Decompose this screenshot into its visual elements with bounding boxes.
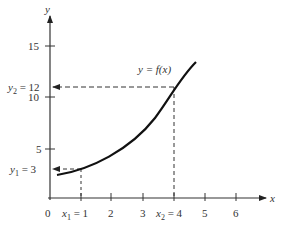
x-tick-5: 5 bbox=[202, 207, 208, 219]
y1-label: y1 = 3 bbox=[9, 163, 37, 178]
y-tick-15: 15 bbox=[28, 40, 40, 52]
y-tick-5: 5 bbox=[36, 143, 42, 155]
function-diagram: x y y = f(x) 15 10 5 y2 = 12 y1 = 3 0 x1… bbox=[0, 0, 286, 232]
curve-label: y = f(x) bbox=[137, 63, 171, 76]
x-tick-3: 3 bbox=[140, 207, 146, 219]
x1-label: x1 = 1 bbox=[61, 207, 88, 222]
function-curve bbox=[57, 62, 196, 175]
y-axis-label: y bbox=[44, 3, 50, 15]
x-tick-2: 2 bbox=[108, 207, 114, 219]
x-ticks bbox=[81, 193, 236, 201]
x-axis-label: x bbox=[269, 192, 275, 204]
x2-label: x2 = 4 bbox=[155, 207, 183, 222]
x-tick-6: 6 bbox=[233, 207, 239, 219]
origin-label: 0 bbox=[45, 207, 51, 219]
